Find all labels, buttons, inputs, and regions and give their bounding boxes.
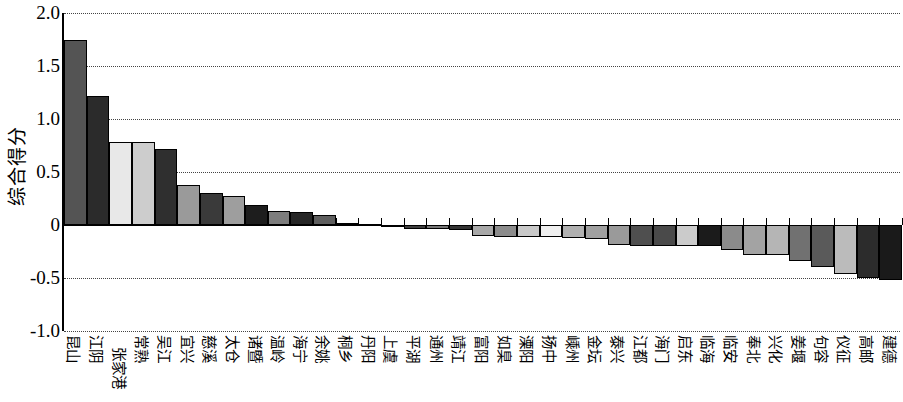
chart-container: 综合得分 2.01.51.00.50-0.5-1.0 昆山江阴张家港常熟吴江宜兴…: [0, 0, 903, 402]
x-axis-tick-label: 上虞: [382, 335, 397, 363]
x-axis-tick: [404, 218, 405, 225]
bar: [743, 225, 766, 255]
bar: [223, 196, 246, 225]
x-axis-tick: [540, 218, 541, 225]
x-axis-tick: [630, 218, 631, 225]
bar: [426, 225, 449, 229]
x-axis-tick: [834, 218, 835, 225]
x-axis-tick-label: 常熟: [133, 335, 148, 363]
x-axis-tick: [585, 218, 586, 225]
x-axis-tick: [336, 218, 337, 225]
bar: [245, 205, 268, 225]
x-axis-tick: [562, 218, 563, 225]
x-axis-tick: [290, 218, 291, 225]
y-axis-tick-label: 2.0: [22, 2, 60, 24]
x-axis-tick-label: 丹阳: [360, 335, 375, 363]
bar: [698, 225, 721, 246]
y-axis-tick-labels: 2.01.51.00.50-0.5-1.0: [18, 0, 60, 340]
x-axis-tick: [87, 218, 88, 225]
x-axis-tick: [766, 218, 767, 225]
x-axis-tick-label: 海门: [654, 335, 669, 363]
x-axis-tick-label: 张家港: [111, 347, 126, 389]
bar: [494, 225, 517, 237]
bar: [132, 142, 155, 225]
x-axis-tick-label: 余姚: [314, 335, 329, 363]
x-axis-tick-label: 昆山: [65, 335, 80, 363]
x-axis-tick-label: 江都: [632, 335, 647, 363]
bar: [358, 224, 381, 226]
x-axis-tick-label: 通州: [428, 335, 443, 363]
bar: [811, 225, 834, 267]
x-axis-tick-labels: 昆山江阴张家港常熟吴江宜兴慈溪太仓诸暨温岭海宁余姚桐乡丹阳上虞平湖通州靖江富阳如…: [62, 333, 900, 402]
bar: [834, 225, 857, 274]
bar: [721, 225, 744, 250]
bar: [540, 225, 563, 237]
bar: [177, 185, 200, 225]
x-axis-tick-label: 建德: [881, 335, 896, 363]
x-axis-tick-label: 临安: [722, 335, 737, 363]
bar: [155, 149, 178, 225]
x-axis-tick-label: 温岭: [269, 335, 284, 363]
bar: [608, 225, 631, 245]
y-axis-tick-label: -0.5: [22, 267, 60, 289]
x-axis-tick: [109, 218, 110, 225]
x-axis-tick: [472, 218, 473, 225]
x-axis-tick-label: 海宁: [292, 335, 307, 363]
bar: [562, 225, 585, 238]
x-axis-tick: [494, 218, 495, 225]
y-axis-tick-label: 0: [22, 214, 60, 236]
x-axis-tick: [426, 218, 427, 225]
plot-area: [62, 13, 900, 331]
x-axis-tick-label: 诸暨: [247, 335, 262, 363]
x-axis-tick-label: 如臬: [496, 335, 511, 363]
x-axis-tick: [64, 218, 65, 225]
bar: [472, 225, 495, 236]
bar: [857, 225, 880, 278]
x-axis-tick-label: 富阳: [473, 335, 488, 363]
x-axis-tick-label: 桐乡: [337, 335, 352, 363]
x-axis-tick-label: 平湖: [405, 335, 420, 363]
y-axis-tick-label: 1.5: [22, 55, 60, 77]
x-axis-tick-label: 启东: [677, 335, 692, 363]
bar: [268, 211, 291, 225]
bar: [879, 225, 902, 280]
x-axis-tick: [517, 218, 518, 225]
x-axis-tick: [857, 218, 858, 225]
x-axis-tick-label: 嵊州: [564, 335, 579, 363]
x-axis-tick-label: 泰兴: [609, 335, 624, 363]
bar: [789, 225, 812, 261]
x-axis-tick: [200, 218, 201, 225]
x-axis-tick: [721, 218, 722, 225]
x-axis-tick-label: 靖江: [450, 335, 465, 363]
bar: [313, 215, 336, 225]
x-axis-tick-label: 扬中: [541, 335, 556, 363]
bar: [585, 225, 608, 239]
x-axis-tick-label: 高邮: [858, 335, 873, 363]
x-axis-tick-label: 姜堰: [790, 335, 805, 363]
x-axis-tick: [381, 218, 382, 225]
x-axis-tick-label: 宜兴: [179, 335, 194, 363]
x-axis-tick: [313, 218, 314, 225]
x-axis-tick: [743, 218, 744, 225]
x-axis-tick-label: 句容: [813, 335, 828, 363]
bar: [290, 212, 313, 225]
x-axis-tick: [698, 218, 699, 225]
bar-series: [64, 13, 900, 331]
bar: [109, 142, 132, 225]
x-axis-tick: [268, 218, 269, 225]
y-axis-tick-label: 0.5: [22, 161, 60, 183]
x-axis-tick: [653, 218, 654, 225]
x-axis-tick: [879, 218, 880, 225]
y-axis-tick-label: -1.0: [22, 320, 60, 342]
y-axis-tick-label: 1.0: [22, 108, 60, 130]
bar: [630, 225, 653, 246]
x-axis-tick-label: 太仓: [224, 335, 239, 363]
x-axis-tick: [608, 218, 609, 225]
x-axis-tick: [449, 218, 450, 225]
x-axis-tick-label: 江阴: [88, 335, 103, 363]
x-axis-tick: [358, 218, 359, 225]
x-axis-tick-label: 仪征: [835, 335, 850, 363]
x-axis-tick: [811, 218, 812, 225]
x-axis-tick-label: 奉北: [745, 335, 760, 363]
bar: [64, 40, 87, 226]
